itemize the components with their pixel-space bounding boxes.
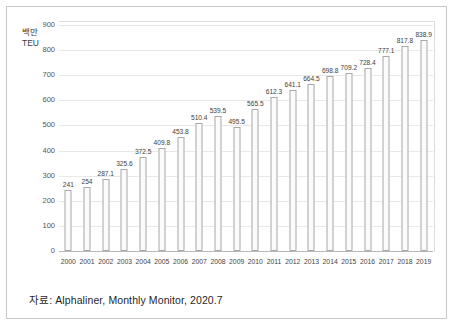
bar-value-label: 664.5: [303, 75, 320, 83]
bar-slot: 453.8: [171, 25, 190, 251]
bar: [65, 190, 72, 251]
bar-value-label: 372.5: [135, 148, 152, 156]
bar: [140, 157, 147, 251]
bar-slot: 728.4: [358, 25, 377, 251]
bar-slot: 817.8: [396, 25, 415, 251]
chart-area: 백만 TEU 0100200300400500600700800900 2412…: [7, 7, 448, 277]
bar-slot: 510.4: [190, 25, 209, 251]
bar-value-label: 709.2: [341, 64, 358, 72]
bar-value-label: 495.5: [228, 118, 245, 126]
x-axis-tick-label: 2015: [340, 257, 359, 266]
bar-slot: 565.5: [246, 25, 265, 251]
y-axis-tick-label: 200: [31, 197, 55, 205]
bar: [308, 84, 315, 251]
source-caption: 자료: Alphaliner, Monthly Monitor, 2020.7: [7, 292, 223, 307]
bar: [252, 109, 259, 251]
x-axis-tick-label: 2005: [153, 257, 172, 266]
bar: [401, 46, 408, 251]
bar-value-label: 838.9: [415, 31, 432, 39]
bar-slot: 287.1: [96, 25, 115, 251]
y-axis-tick-label: 600: [31, 96, 55, 104]
bar-value-label: 409.8: [154, 139, 171, 147]
bar: [345, 73, 352, 251]
bar: [420, 40, 427, 251]
bar: [196, 123, 203, 251]
bar-slot: 325.6: [115, 25, 134, 251]
bar: [271, 97, 278, 251]
bar: [364, 68, 371, 251]
bar: [158, 148, 165, 251]
figure-container: 백만 TEU 0100200300400500600700800900 2412…: [6, 6, 447, 319]
bar: [327, 76, 334, 251]
x-axis-tick-label: 2007: [190, 257, 209, 266]
bar-value-label: 641.1: [284, 81, 301, 89]
y-axis-tick-label: 800: [31, 46, 55, 54]
x-axis-tick-labels-group: 2000200120022003200420052006200720082009…: [59, 257, 433, 271]
bar-value-label: 817.8: [397, 37, 414, 45]
x-axis-tick-label: 2012: [283, 257, 302, 266]
bar-value-label: 539.5: [210, 107, 227, 115]
x-axis-tick-label: 2001: [78, 257, 97, 266]
x-axis-tick-label: 2014: [321, 257, 340, 266]
bar-slot: 709.2: [340, 25, 359, 251]
x-axis-tick-label: 2006: [171, 257, 190, 266]
bar: [289, 90, 296, 251]
x-axis-tick-label: 2018: [396, 257, 415, 266]
bar-value-label: 287.1: [97, 170, 114, 178]
x-axis-tick-label: 2019: [414, 257, 433, 266]
bar-value-label: 510.4: [191, 114, 208, 122]
bars-group: 241254287.1325.6372.5409.8453.8510.4539.…: [59, 25, 433, 251]
x-axis-tick-label: 2004: [134, 257, 153, 266]
bar-slot: 495.5: [227, 25, 246, 251]
x-axis-tick-label: 2000: [59, 257, 78, 266]
bar-slot: 254: [78, 25, 97, 251]
bar-slot: 641.1: [283, 25, 302, 251]
y-axis-tick-label: 300: [31, 172, 55, 180]
bar-value-label: 241: [63, 181, 74, 189]
bar: [233, 127, 240, 251]
x-axis-tick-label: 2003: [115, 257, 134, 266]
bar-slot: 241: [59, 25, 78, 251]
x-axis-tick-label: 2013: [302, 257, 321, 266]
bar-slot: 698.8: [321, 25, 340, 251]
bar-slot: 777.1: [377, 25, 396, 251]
x-axis-tick-label: 2017: [377, 257, 396, 266]
y-axis-tick-label: 100: [31, 222, 55, 230]
bar-slot: 612.3: [265, 25, 284, 251]
bar-value-label: 777.1: [378, 47, 395, 55]
bar: [121, 169, 128, 251]
bar-slot: 409.8: [153, 25, 172, 251]
y-axis-tick-label: 400: [31, 147, 55, 155]
bar-value-label: 565.5: [247, 100, 264, 108]
caption-row: 자료: Alphaliner, Monthly Monitor, 2020.7: [7, 279, 448, 320]
bar-value-label: 698.8: [322, 67, 339, 75]
bar: [214, 116, 221, 251]
bar-slot: 664.5: [302, 25, 321, 251]
bar-slot: 539.5: [209, 25, 228, 251]
bar-value-label: 325.6: [116, 160, 133, 168]
bar-value-label: 612.3: [266, 88, 283, 96]
bar: [102, 179, 109, 251]
x-axis-tick-label: 2008: [209, 257, 228, 266]
x-axis-line: [59, 251, 433, 252]
x-axis-tick-label: 2010: [246, 257, 265, 266]
bar-slot: 838.9: [414, 25, 433, 251]
x-axis-tick-label: 2002: [96, 257, 115, 266]
x-axis-tick-label: 2016: [358, 257, 377, 266]
x-axis-tick-label: 2009: [227, 257, 246, 266]
y-axis-tick-label: 900: [31, 21, 55, 29]
y-axis-tick-label: 0: [31, 247, 55, 255]
bar: [177, 137, 184, 251]
bar: [383, 56, 390, 251]
x-axis-tick-label: 2011: [265, 257, 284, 266]
bar-value-label: 453.8: [172, 128, 189, 136]
bar: [84, 187, 91, 251]
bar-value-label: 728.4: [359, 59, 376, 67]
y-axis-tick-label: 500: [31, 121, 55, 129]
y-axis-tick-label: 700: [31, 71, 55, 79]
bar-slot: 372.5: [134, 25, 153, 251]
bar-value-label: 254: [82, 178, 93, 186]
